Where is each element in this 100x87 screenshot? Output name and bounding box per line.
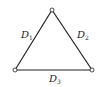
label-d1: D1 xyxy=(20,29,33,41)
vertex-bottom-left xyxy=(13,68,17,72)
triangle-diagram: D1 D2 D3 xyxy=(0,0,100,87)
vertex-bottom-right xyxy=(90,68,94,72)
label-d3: D3 xyxy=(48,73,61,85)
edge-d1 xyxy=(15,10,52,70)
vertex-top xyxy=(50,8,54,12)
label-d2: D2 xyxy=(76,29,89,41)
